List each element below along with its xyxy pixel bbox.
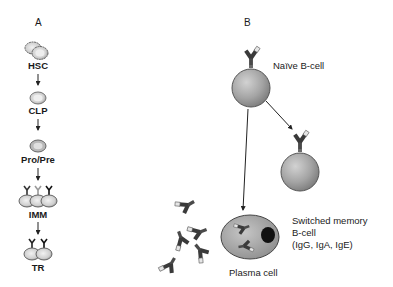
free-antibodies — [157, 194, 213, 278]
arrow-naive-to-memory — [266, 101, 292, 129]
stage-label-imm: IMM — [29, 210, 47, 220]
stage-label-clp: CLP — [29, 106, 48, 116]
tr-cells — [24, 239, 52, 260]
naive-b-cell-label: Naïve B-cell — [273, 60, 324, 72]
imm-cells — [19, 186, 57, 207]
memory-b-cell-label: Switched memory B-cell (IgG, IgA, IgE) — [292, 215, 368, 251]
arrow-naive-to-plasma — [243, 109, 248, 210]
panel-a-label: A — [35, 18, 42, 28]
clp-cell — [30, 92, 46, 104]
memory-label-line-2: B-cell — [292, 227, 368, 239]
diagram-canvas: A B HSC CLP Pro/Pre IMM TR Naïve B-cell … — [0, 0, 393, 287]
memory-label-line-1: Switched memory — [292, 215, 368, 227]
naive-b-cell — [232, 46, 270, 107]
stage-label-hsc: HSC — [28, 61, 48, 71]
stage-label-tr: TR — [32, 263, 45, 273]
pro-pre-cell — [30, 140, 46, 152]
panel-a-graphics — [19, 42, 57, 260]
plasma-cell — [221, 215, 279, 259]
memory-label-line-3: (IgG, IgA, IgE) — [292, 239, 368, 251]
panel-b-label: B — [244, 18, 251, 28]
memory-b-cell — [281, 130, 319, 191]
stage-label-pro-pre: Pro/Pre — [21, 155, 55, 165]
hsc-cells — [25, 42, 48, 60]
plasma-cell-label: Plasma cell — [229, 267, 278, 279]
